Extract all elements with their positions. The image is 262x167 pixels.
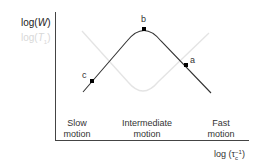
region-fast-line1: Fast	[203, 118, 239, 129]
point-a-label: a	[190, 55, 195, 65]
region-fast-line2: motion	[203, 129, 239, 140]
y-label-w-base: log(	[21, 17, 38, 28]
relaxation-diagram: log(W) log(T1) a b c Slow motion Interme…	[0, 0, 262, 167]
y-label-t-base: log(	[21, 32, 38, 43]
y-label-w-close: )	[47, 17, 50, 28]
region-fast-motion: Fast motion	[203, 118, 239, 140]
y-label-t-close: )	[47, 32, 50, 43]
point-b-marker	[142, 27, 146, 31]
x-axis-label: log (τ−1c)	[214, 149, 245, 161]
point-b-label: b	[141, 14, 146, 24]
region-intermediate-line2: motion	[114, 129, 180, 140]
point-c-label: c	[82, 70, 87, 80]
point-c-marker	[90, 79, 94, 83]
x-label-base: log (τ	[214, 149, 235, 159]
region-slow-motion: Slow motion	[60, 118, 94, 140]
y-axis-label-w: log(W)	[21, 17, 50, 28]
x-label-sub: c	[235, 155, 242, 161]
y-axis-label-t1: log(T1)	[21, 32, 50, 48]
point-a-marker	[184, 63, 188, 67]
region-slow-line2: motion	[60, 129, 94, 140]
region-intermediate-line1: Intermediate	[114, 118, 180, 129]
region-intermediate-motion: Intermediate motion	[114, 118, 180, 140]
y-label-w-var: W	[38, 17, 47, 28]
x-label-close: )	[242, 149, 245, 159]
region-slow-line1: Slow	[60, 118, 94, 129]
